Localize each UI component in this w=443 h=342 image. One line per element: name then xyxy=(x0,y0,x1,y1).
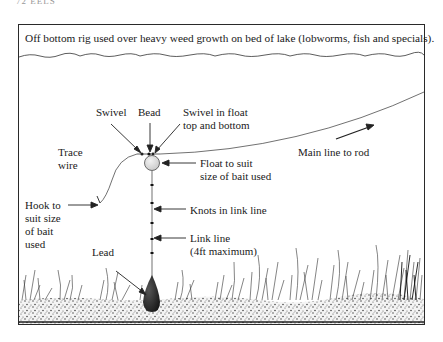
trace-wire xyxy=(100,154,137,203)
label-swivel-float-2: top and bottom xyxy=(183,119,250,131)
label-float-2: size of bait used xyxy=(200,170,271,182)
bead xyxy=(147,152,150,155)
swivel-float-top xyxy=(152,153,155,156)
label-float-1: Float to suit xyxy=(200,157,253,169)
label-link-1: Link line xyxy=(190,232,230,244)
label-hook-2: suit size xyxy=(25,212,61,224)
lake-bed xyxy=(19,293,424,324)
water-surface xyxy=(19,52,424,57)
label-link-2: (4ft maximum) xyxy=(190,245,257,257)
label-hook-4: used xyxy=(25,238,45,250)
hook xyxy=(97,196,100,203)
label-knots: Knots in link line xyxy=(190,204,267,216)
label-hook-1: Hook to xyxy=(25,199,61,211)
label-bead: Bead xyxy=(138,106,161,118)
label-lead: Lead xyxy=(92,246,114,258)
label-trace-1: Trace xyxy=(58,146,83,158)
label-swivel-float-1: Swivel in float xyxy=(183,106,248,118)
float xyxy=(145,156,160,171)
label-hook-3: of bait xyxy=(25,225,53,237)
label-swivel: Swivel xyxy=(96,106,127,118)
label-main-line: Main line to rod xyxy=(298,146,369,158)
label-trace-2: wire xyxy=(58,159,78,171)
